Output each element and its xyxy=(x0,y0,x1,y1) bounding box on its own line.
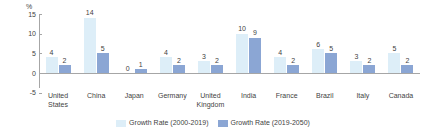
y-tick-label-0: 0 xyxy=(32,70,36,77)
bar-group: 42 xyxy=(153,13,191,73)
bar[interactable] xyxy=(287,65,299,73)
y-tick-mark-10 xyxy=(39,34,42,35)
bar[interactable] xyxy=(249,38,261,73)
bar-value-label: 5 xyxy=(385,45,403,52)
bar-value-label: 4 xyxy=(43,49,61,56)
bar[interactable] xyxy=(211,65,223,73)
zero-baseline xyxy=(39,73,420,74)
legend-label: Growth Rate (2000-2019) xyxy=(129,119,208,127)
bar[interactable] xyxy=(59,65,71,73)
y-tick-mark--5 xyxy=(39,93,42,94)
bar-group: 65 xyxy=(306,13,344,73)
bar[interactable] xyxy=(325,53,337,73)
bar[interactable] xyxy=(97,53,109,73)
bar-group: 32 xyxy=(191,13,229,73)
legend-item[interactable]: Growth Rate (2000-2019) xyxy=(116,119,208,127)
legend-swatch-icon xyxy=(116,120,126,127)
bar-value-label: 5 xyxy=(322,45,340,52)
x-tick-label-canada: Canada xyxy=(379,92,423,101)
bar[interactable] xyxy=(135,69,147,73)
bar-value-label: 2 xyxy=(398,57,416,64)
legend-swatch-icon xyxy=(218,120,228,127)
bar-value-label: 2 xyxy=(56,57,74,64)
bar-group: 52 xyxy=(382,13,420,73)
bar-value-label: 2 xyxy=(208,57,226,64)
x-axis-category-labels: United StatesChinaJapanGermanyUnited Kin… xyxy=(39,92,420,114)
grouped-bar-chart: % 151050-5 4214501423210942653252 United… xyxy=(0,0,426,140)
bar-value-label: 2 xyxy=(170,57,188,64)
bar-group: 01 xyxy=(115,13,153,73)
bar-value-label: 4 xyxy=(271,49,289,56)
bar-group: 42 xyxy=(39,13,77,73)
legend-label: Growth Rate (2019-2050) xyxy=(231,119,310,127)
bar-value-label: 2 xyxy=(284,57,302,64)
y-tick-label-15: 15 xyxy=(28,11,36,18)
bars-layer: 4214501423210942653252 xyxy=(39,14,420,73)
bar-value-label: 2 xyxy=(360,57,378,64)
bar-value-label: 9 xyxy=(246,29,264,36)
bar-value-label: 5 xyxy=(94,45,112,52)
y-tick-label-5: 5 xyxy=(32,50,36,57)
y-tick-mark-0 xyxy=(39,73,42,74)
bar[interactable] xyxy=(312,49,324,73)
bar-group: 109 xyxy=(230,13,268,73)
bar-value-label: 14 xyxy=(81,9,99,16)
bar-value-label: 4 xyxy=(157,49,175,56)
bar[interactable] xyxy=(173,65,185,73)
bar-group: 145 xyxy=(77,13,115,73)
bar[interactable] xyxy=(401,65,413,73)
legend-item[interactable]: Growth Rate (2019-2050) xyxy=(218,119,310,127)
bar-group: 42 xyxy=(268,13,306,73)
y-tick-mark-5 xyxy=(39,53,42,54)
bar-group: 32 xyxy=(344,13,382,73)
chart-legend: Growth Rate (2000-2019)Growth Rate (2019… xyxy=(0,119,426,127)
bar[interactable] xyxy=(363,65,375,73)
bar-value-label: 1 xyxy=(132,61,150,68)
y-tick-label-10: 10 xyxy=(28,30,36,37)
bar[interactable] xyxy=(236,34,248,73)
y-tick-mark-15 xyxy=(39,14,42,15)
